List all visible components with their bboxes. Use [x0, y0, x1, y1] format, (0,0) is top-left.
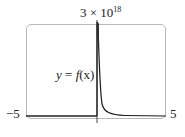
- curve-right-branch: [97, 22, 166, 116]
- curve-label-arg: (x): [79, 67, 94, 82]
- curve-label: y = f(x): [56, 68, 94, 81]
- x-max-label: 5: [170, 107, 177, 120]
- curve-label-equals: =: [62, 67, 76, 82]
- x-min-label: −5: [6, 107, 20, 120]
